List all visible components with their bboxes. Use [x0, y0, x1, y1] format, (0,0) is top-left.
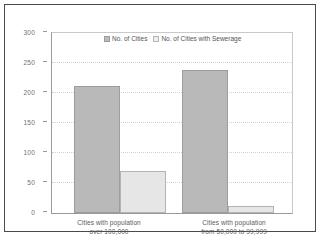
- y-tick-mark-150: [43, 121, 47, 122]
- gridline-250: [52, 62, 292, 63]
- x-category-label-over-100000: Cities with population over 100,000: [49, 218, 169, 236]
- y-tick-mark-50: [43, 181, 47, 182]
- bar-sewerage-over-100000: [120, 171, 166, 213]
- legend-swatch-icon-no-of-cities: [104, 36, 110, 42]
- legend-entry-no-of-cities: No. of Cities: [104, 35, 147, 42]
- y-tick-label-250: 250: [0, 59, 35, 66]
- y-tick-mark-250: [43, 61, 47, 62]
- bar-sewerage-50000-99999: [228, 206, 274, 213]
- y-tick-label-150: 150: [0, 119, 35, 126]
- y-tick-label-50: 50: [0, 179, 35, 186]
- y-tick-mark-300: [43, 31, 47, 32]
- y-tick-label-100: 100: [0, 149, 35, 156]
- bar-cities-over-100000: [74, 86, 120, 213]
- y-tick-label-200: 200: [0, 89, 35, 96]
- y-tick-label-0: 0: [0, 209, 35, 216]
- chart-figure: 300 250 200 150 100 50 0: [0, 0, 322, 240]
- plot-area: [51, 32, 293, 214]
- chart-outer-frame: 300 250 200 150 100 50 0: [4, 4, 316, 232]
- legend-label-no-of-cities: No. of Cities: [112, 35, 147, 42]
- y-tick-label-300: 300: [0, 29, 35, 36]
- x-category-label-50000-99999: Cities with population from 50,000 to 99…: [169, 218, 299, 236]
- y-tick-mark-200: [43, 91, 47, 92]
- x-category-line-1: Cities with population: [169, 218, 299, 227]
- legend-entry-no-of-cities-with-sewerage: No. of Cities with Sewerage: [153, 35, 241, 42]
- x-category-line-2: over 100,000: [49, 227, 169, 236]
- y-tick-mark-100: [43, 151, 47, 152]
- legend-swatch-icon-no-of-cities-with-sewerage: [153, 36, 159, 42]
- x-category-line-1: Cities with population: [49, 218, 169, 227]
- y-tick-mark-0: [43, 211, 47, 212]
- legend-label-no-of-cities-with-sewerage: No. of Cities with Sewerage: [161, 35, 241, 42]
- bar-cities-50000-99999: [182, 70, 228, 213]
- x-category-line-2: from 50,000 to 99,999: [169, 227, 299, 236]
- chart-legend: No. of Cities No. of Cities with Sewerag…: [101, 33, 244, 44]
